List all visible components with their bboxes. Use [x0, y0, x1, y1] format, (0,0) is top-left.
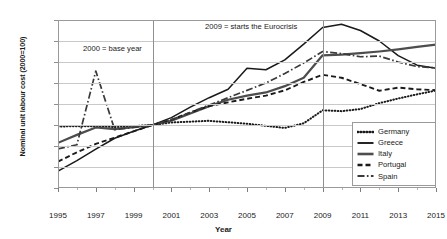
legend-item-greece[interactable]: Greece: [357, 137, 432, 148]
legend-swatch-icon: [357, 138, 374, 148]
x-tick-label: 2011: [340, 211, 380, 220]
line-chart: Nominal unit labour cost (2000=100) 1995…: [0, 0, 447, 239]
legend-swatch-icon: [357, 149, 374, 159]
legend-label: Germany: [378, 128, 409, 136]
x-tick-label: 1999: [114, 211, 154, 220]
x-tick-label: 1995: [38, 211, 78, 220]
annotation-eurocrisis: 2009 = starts the Eurocrisis: [205, 22, 297, 31]
x-tick-mark: [96, 188, 97, 192]
legend-swatch-icon: [357, 127, 374, 137]
x-tick-mark: [209, 188, 210, 192]
x-tick-label: 1997: [76, 211, 116, 220]
x-tick-mark: [228, 188, 229, 190]
x-tick-mark: [247, 188, 248, 192]
legend-swatch-icon: [357, 160, 374, 170]
x-tick-mark: [436, 188, 437, 192]
x-tick-label: 2005: [227, 211, 267, 220]
x-tick-mark: [134, 188, 135, 192]
legend-item-portugal[interactable]: Portugal: [357, 160, 432, 171]
x-tick-label: 2009: [303, 211, 343, 220]
y-tick-mark: [54, 20, 58, 21]
x-tick-mark: [115, 188, 116, 190]
y-axis-title: Nominal unit labour cost (2000=100): [18, 17, 27, 177]
x-axis-title: Year: [0, 225, 447, 234]
y-tick-mark: [54, 41, 58, 42]
legend-label: Spain: [378, 173, 397, 181]
x-tick-mark: [379, 188, 380, 190]
x-tick-label: 2007: [265, 211, 305, 220]
x-tick-mark: [323, 188, 324, 192]
legend-label: Portugal: [378, 161, 406, 169]
y-tick-mark: [54, 104, 58, 105]
chart-legend: GermanyGreeceItalyPortugalSpain: [352, 122, 436, 186]
x-tick-mark: [153, 188, 154, 190]
x-tick-mark: [360, 188, 361, 192]
legend-label: Italy: [378, 150, 392, 158]
legend-swatch-icon: [357, 171, 374, 181]
y-tick-mark: [54, 188, 58, 189]
x-tick-mark: [77, 188, 78, 190]
x-tick-mark: [171, 188, 172, 192]
legend-item-italy[interactable]: Italy: [357, 148, 432, 159]
y-tick-mark: [54, 83, 58, 84]
legend-item-spain[interactable]: Spain: [357, 171, 432, 182]
x-tick-mark: [304, 188, 305, 190]
annotation-base-year: 2000 = base year: [83, 44, 142, 53]
x-tick-mark: [398, 188, 399, 192]
x-tick-mark: [285, 188, 286, 192]
legend-item-germany[interactable]: Germany: [357, 126, 432, 137]
x-tick-mark: [266, 188, 267, 190]
x-tick-mark: [417, 188, 418, 190]
x-tick-mark: [342, 188, 343, 190]
y-tick-mark: [54, 62, 58, 63]
x-tick-label: 2003: [189, 211, 229, 220]
y-tick-mark: [54, 125, 58, 126]
x-tick-mark: [190, 188, 191, 190]
x-tick-label: 2013: [378, 211, 418, 220]
legend-label: Greece: [378, 139, 403, 147]
x-tick-mark: [58, 188, 59, 192]
y-tick-mark: [54, 146, 58, 147]
x-tick-label: 2015: [416, 211, 447, 220]
y-tick-mark: [54, 167, 58, 168]
x-tick-label: 2001: [151, 211, 191, 220]
